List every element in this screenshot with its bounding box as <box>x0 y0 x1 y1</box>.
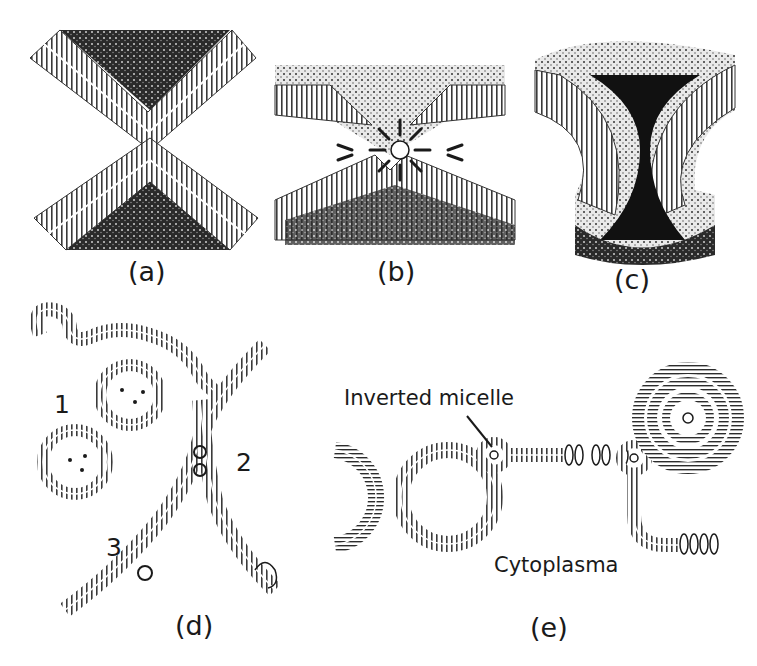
panel-b-graphic <box>275 65 515 245</box>
panel-a-graphic <box>30 30 258 250</box>
panel-c-graphic <box>535 41 735 265</box>
membrane-fusion-figure: (a) (b) (c) (d) (e) 1 2 3 Inverted micel… <box>0 0 757 666</box>
figure-graphics <box>0 0 757 666</box>
inverted-micelle-label: Inverted micelle <box>344 386 514 410</box>
panel-label-d: (d) <box>175 610 213 641</box>
cytoplasma-label: Cytoplasma <box>494 553 618 577</box>
event-number-3: 3 <box>106 533 122 562</box>
panel-label-c: (c) <box>614 264 650 295</box>
panel-label-e: (e) <box>530 612 568 643</box>
event-number-2: 2 <box>236 448 252 477</box>
panel-label-b: (b) <box>377 256 415 287</box>
event-number-1: 1 <box>54 390 70 419</box>
panel-label-a: (a) <box>128 256 166 287</box>
